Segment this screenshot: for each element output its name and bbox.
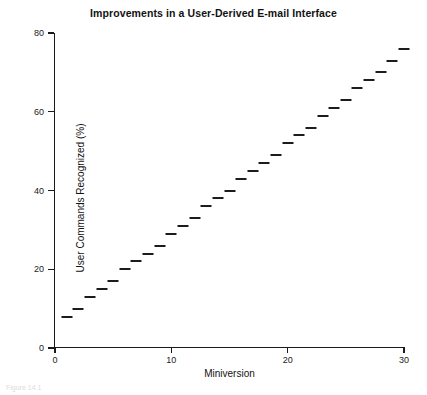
chart-title: Improvements in a User-Derived E-mail In… <box>0 7 427 19</box>
y-tick-60 <box>48 111 54 112</box>
y-axis-label: User Commands Recognized (%) <box>75 123 86 272</box>
x-tick-0 <box>54 347 55 353</box>
data-point <box>305 127 316 129</box>
data-point <box>340 99 351 101</box>
x-tick-10 <box>171 347 172 353</box>
data-point <box>259 162 270 164</box>
data-point <box>399 48 410 50</box>
plot-area: 020406080 0102030 <box>55 33 404 348</box>
y-axis-line <box>54 33 55 348</box>
y-tick-label-0: 0 <box>39 343 44 353</box>
data-point <box>201 205 212 207</box>
data-point <box>96 288 107 290</box>
x-tick-label-10: 10 <box>166 355 176 365</box>
data-point <box>212 197 223 199</box>
y-tick-label-40: 40 <box>34 186 44 196</box>
data-point <box>84 296 95 298</box>
data-point <box>143 253 154 255</box>
data-point <box>375 71 386 73</box>
data-point <box>154 245 165 247</box>
data-point <box>282 142 293 144</box>
y-tick-40 <box>48 190 54 191</box>
data-point <box>119 268 130 270</box>
data-point <box>189 217 200 219</box>
x-tick-30 <box>403 347 404 353</box>
x-axis-line <box>54 347 404 348</box>
data-point <box>247 170 258 172</box>
data-point <box>166 233 177 235</box>
data-point <box>131 260 142 262</box>
y-tick-label-20: 20 <box>34 264 44 274</box>
data-point <box>108 280 119 282</box>
y-tick-0 <box>48 347 54 348</box>
y-tick-80 <box>48 32 54 33</box>
data-point <box>294 134 305 136</box>
data-point <box>352 87 363 89</box>
data-point <box>364 79 375 81</box>
y-tick-label-60: 60 <box>34 107 44 117</box>
x-tick-label-20: 20 <box>283 355 293 365</box>
y-tick-label-80: 80 <box>34 28 44 38</box>
data-point <box>224 190 235 192</box>
data-point <box>271 154 282 156</box>
x-axis-label: Miniversion <box>55 368 404 379</box>
x-tick-label-30: 30 <box>399 355 409 365</box>
data-point <box>329 107 340 109</box>
data-point <box>73 308 84 310</box>
data-point <box>317 115 328 117</box>
data-point <box>177 225 188 227</box>
figure-caption: Figure 14.1 <box>6 384 41 391</box>
data-point <box>61 316 72 318</box>
x-tick-20 <box>287 347 288 353</box>
data-point <box>236 178 247 180</box>
y-tick-20 <box>48 269 54 270</box>
chart-figure: Improvements in a User-Derived E-mail In… <box>0 0 427 395</box>
data-point <box>387 60 398 62</box>
x-tick-label-0: 0 <box>52 355 57 365</box>
